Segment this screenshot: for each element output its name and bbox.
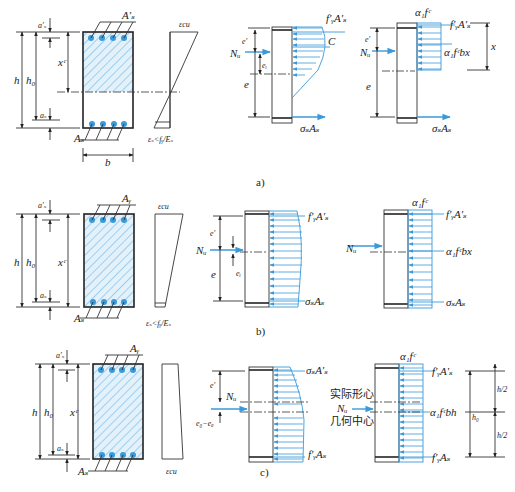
dim-h0: h₀: [26, 256, 36, 268]
ecc-e-prime: e′: [210, 381, 216, 390]
strain-top-label: εcu: [179, 20, 190, 29]
dim-h0: h₀: [472, 413, 479, 422]
strain-diagram-b: εcu εₛ<fᵧ/Eₛ: [146, 202, 183, 328]
force-concrete: α₁fᶜbh: [430, 406, 457, 418]
dim-h0: h₀: [26, 74, 36, 86]
strain-bot-label: εcu: [166, 467, 177, 476]
actual-stress-c: Nᵤ e′ e₀−eₐ σₛA′ₛ f′ᵧAₛ: [196, 364, 328, 462]
strain-diagram-a: εcu εₛ<fᵧ/Eₛ: [148, 20, 198, 144]
force-concrete: α₁fᶜbx: [446, 245, 472, 257]
steel-top-label: A′ₛ: [121, 9, 135, 21]
load-label: Nᵤ: [225, 390, 237, 402]
dim-as-bot: aₛ: [40, 291, 47, 300]
force-bot: σₛAₛ: [300, 122, 320, 134]
section-a: h h₀ xᶜ a′ₛ aₛ b A′ₛ Aₛ: [14, 9, 180, 168]
dim-h: h: [32, 406, 38, 418]
force-concrete: α₁fᶜbx: [444, 46, 470, 58]
dim-xc: xᶜ: [57, 56, 67, 68]
dim-xc: xᶜ: [57, 256, 67, 268]
dim-h: h: [14, 74, 20, 86]
force-top: f′ᵧA′ₛ: [450, 18, 471, 30]
dim-h0: h₀: [44, 406, 54, 418]
ecc-e: e: [366, 80, 371, 92]
ecc-e0-ea: e₀−eₐ: [196, 419, 214, 428]
section-c: h h₀ xᶜ a′ₛ aₛ Aᵧ Aₛ: [32, 342, 143, 477]
force-top: f′ᵧA′ₛ: [446, 208, 467, 220]
steel-bot-label: Aₛ: [73, 132, 85, 144]
panel-label-a: a): [256, 176, 265, 189]
dim-as-top: a′ₛ: [56, 351, 65, 360]
load-label: Nᵤ: [345, 242, 357, 254]
strain-top-label: εcu: [158, 202, 169, 211]
steel-top-label: Aᵧ: [129, 342, 140, 354]
load-label: Nᵤ: [359, 46, 371, 58]
dim-b: b: [105, 156, 111, 168]
ecc-e: e: [244, 78, 249, 90]
ecc-e-prime: e′: [210, 229, 216, 238]
ecc-e-prime: e′: [365, 35, 371, 44]
steel-bot-label: Aₛ: [77, 465, 89, 477]
force-bot: σₛAₛ: [305, 295, 325, 307]
ecc-e-prime: e′: [242, 37, 248, 46]
strain-diagram-c: εcu: [162, 364, 183, 476]
steel-bot-label: Aₛ: [73, 312, 85, 324]
load-label: Nᵤ: [195, 244, 207, 256]
equivalent-stress-b: Nᵤ α₁fᶜ f′ᵧA′ₛ α₁fᶜbx σₛAₛ: [345, 196, 472, 308]
centroid-actual-label: 实际形心: [330, 387, 374, 401]
ecc-ei: eᵢ: [262, 61, 267, 70]
panel-label-c: c): [260, 466, 269, 479]
steel-top-label: Aᵧ: [121, 192, 132, 204]
force-bot: σₛAₛ: [446, 296, 466, 308]
dim-as-bot: aₛ: [40, 111, 47, 120]
force-top: f′ᵧA′ₛ: [432, 365, 453, 377]
panel-a: h h₀ xᶜ a′ₛ aₛ b A′ₛ Aₛ εcu εₛ<fᵧ/Eₛ: [14, 6, 496, 189]
stress-top-label: α₁fᶜ: [400, 350, 417, 362]
actual-stress-a: Nᵤ e′ eᵢ e f′ᵧA′ₛ C σₛAₛ: [229, 12, 347, 134]
force-bot: f′ᵧAₛ: [308, 448, 327, 460]
force-top: f′ᵧA′ₛ: [308, 210, 329, 222]
stress-top-label: α₁fᶜ: [412, 196, 429, 208]
centroid-geometric-label: 几何中心: [330, 415, 374, 428]
ecc-e: e: [211, 268, 216, 280]
stress-top-label: α₁fᶜ: [415, 6, 432, 18]
load-label: Nᵤ: [336, 402, 348, 414]
force-bot: f′ᵧAₛ: [432, 451, 451, 463]
equivalent-stress-c: 实际形心 Nᵤ 几何中心 α₁fᶜ f′ᵧA′ₛ α₁fᶜbh f′ᵧAₛ h/…: [330, 350, 507, 463]
force-c: C: [328, 35, 336, 47]
actual-stress-b: Nᵤ e′ eᵢ e f′ᵧA′ₛ σₛAₛ: [195, 210, 329, 307]
depth-x: x: [490, 40, 496, 52]
force-top: f′ᵧA′ₛ: [326, 12, 347, 24]
dim-h-half-bot: h/2: [497, 431, 507, 440]
equivalent-stress-a: Nᵤ e′ e α₁fᶜ f′ᵧA′ₛ α₁fᶜbx σₛAₛ x: [359, 6, 496, 134]
dim-as-bot: aₛ: [57, 444, 64, 453]
dim-as-top: a′ₛ: [38, 21, 47, 30]
force-bot: σₛAₛ: [432, 122, 452, 134]
force-top: σₛA′ₛ: [306, 364, 328, 376]
strain-bot-label: εₛ<fᵧ/Eₛ: [146, 319, 171, 328]
ecc-ei: eᵢ: [236, 269, 241, 278]
dim-as-top: a′ₛ: [38, 201, 47, 210]
dim-h-half-top: h/2: [497, 385, 507, 394]
strain-bot-label: εₛ<fᵧ/Eₛ: [148, 135, 173, 144]
load-label: Nᵤ: [229, 47, 241, 59]
panel-c: h h₀ xᶜ a′ₛ aₛ Aᵧ Aₛ εcu: [32, 342, 507, 479]
section-b: h h₀ xᶜ a′ₛ aₛ Aᵧ Aₛ: [14, 192, 136, 324]
dim-xc: xᶜ: [69, 406, 79, 418]
panel-label-b: b): [256, 325, 266, 338]
rebar-bottom: [80, 121, 127, 140]
dim-h: h: [14, 256, 20, 268]
figure-canvas: h h₀ xᶜ a′ₛ aₛ b A′ₛ Aₛ εcu εₛ<fᵧ/Eₛ: [0, 0, 515, 492]
panel-b: h h₀ xᶜ a′ₛ aₛ Aᵧ Aₛ εcu εₛ<fᵧ/Eₛ: [14, 192, 472, 338]
